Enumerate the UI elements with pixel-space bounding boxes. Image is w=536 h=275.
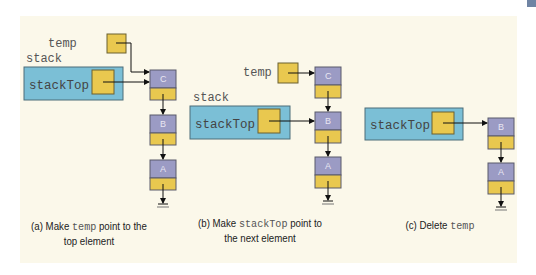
stacktop-label: stackTop [195, 118, 255, 132]
null-ground-icon [322, 201, 334, 204]
stacktop-label: stackTop [370, 119, 430, 133]
null-ground-icon [495, 207, 507, 210]
svg-text:B: B [160, 119, 166, 129]
stacktop-label: stackTop [29, 79, 89, 93]
caption-c: (c) Delete temp [392, 218, 489, 233]
svg-text:B: B [498, 122, 504, 132]
panel-c: stackTop B A [365, 108, 514, 210]
panel-b: temp stack stackTop C B A [190, 63, 341, 204]
svg-text:A: A [498, 167, 504, 177]
temp-label: temp [48, 37, 77, 51]
panel-a: temp stack stackTop C B A [24, 34, 176, 207]
stack-label: stack [26, 52, 62, 66]
caption-b: (b) Make stackTop point to the next elem… [185, 216, 335, 245]
svg-text:A: A [160, 164, 166, 174]
svg-text:A: A [325, 161, 331, 171]
null-ground-icon [157, 204, 169, 207]
temp-label: temp [243, 66, 272, 80]
svg-text:C: C [160, 74, 167, 84]
svg-text:C: C [325, 71, 332, 81]
caption-a: (a) Make temp point to the top element [23, 219, 155, 248]
svg-text:B: B [325, 116, 331, 126]
stack-label: stack [193, 91, 229, 105]
